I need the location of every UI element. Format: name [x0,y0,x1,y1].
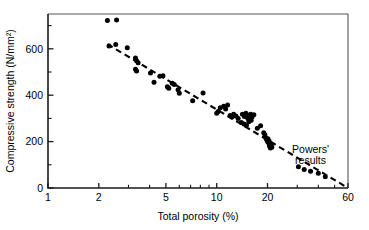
data-point [114,18,119,23]
data-point [160,73,165,78]
data-point [251,112,256,117]
data-point [316,171,321,176]
data-point [125,45,130,50]
x-tick-label: 5 [163,191,169,203]
data-point [148,70,153,75]
x-tick-label: 1 [45,191,51,203]
data-point [323,174,328,179]
data-point [172,82,177,87]
data-point [177,91,182,96]
data-point [152,80,157,85]
data-point [201,90,206,95]
y-axis-title: Compressive strength (N/mm²) [4,29,16,173]
x-axis-title: Total porosity (%) [157,210,238,222]
data-point [166,86,171,91]
data-point [302,167,307,172]
scatter-chart: 1251020600200400600Powers'resultsTotal p… [0,0,369,230]
data-point [105,18,110,23]
y-tick-label: 0 [37,182,43,194]
x-tick-label: 60 [342,191,354,203]
data-point [258,123,263,128]
y-tick-label: 200 [25,135,43,147]
data-point [249,118,254,123]
y-tick-label: 600 [25,43,43,55]
data-point [107,44,112,49]
data-point [308,169,313,174]
x-tick-label: 20 [262,191,274,203]
data-point [225,102,230,107]
annotation-powers-results: results [295,154,326,166]
y-tick-label: 400 [25,89,43,101]
data-point [236,116,241,121]
x-tick-label: 10 [211,191,223,203]
data-point [269,145,274,150]
data-point [134,69,139,74]
figure-container: 1251020600200400600Powers'resultsTotal p… [0,0,369,230]
data-point [136,60,141,65]
data-point [190,98,195,103]
x-tick-label: 2 [96,191,102,203]
data-point [113,42,118,47]
